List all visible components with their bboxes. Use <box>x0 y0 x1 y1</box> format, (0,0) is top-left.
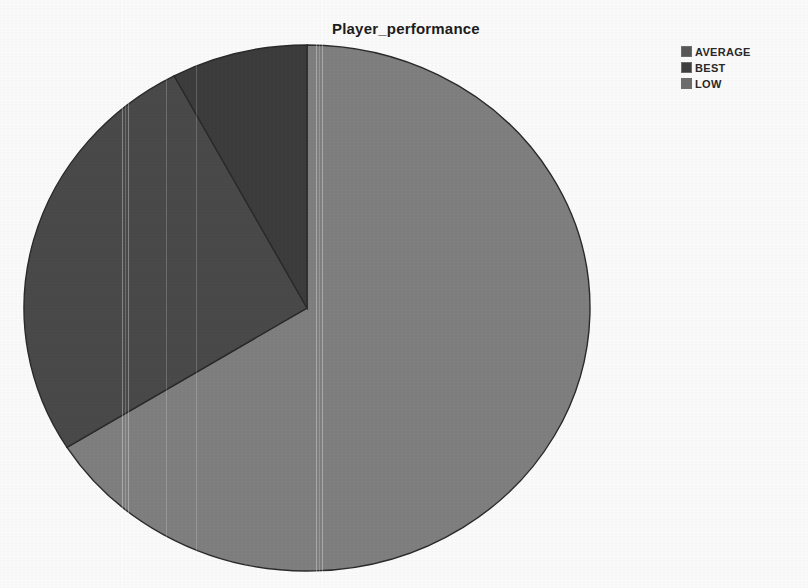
legend-item-average[interactable]: AVERAGE <box>681 44 801 59</box>
legend-label: BEST <box>695 62 726 74</box>
legend-label: LOW <box>695 78 722 90</box>
pie-slice-group: LOW: 66%AVERAGE: 26%BEST: 8% <box>24 45 590 571</box>
legend-item-best[interactable]: BEST <box>681 60 801 75</box>
legend-swatch-icon <box>681 62 692 73</box>
pie-chart: LOW: 66%AVERAGE: 26%BEST: 8% <box>0 0 620 588</box>
pie-chart-svg: LOW: 66%AVERAGE: 26%BEST: 8% <box>0 0 620 588</box>
chart-legend: AVERAGE BEST LOW <box>681 44 801 92</box>
chart-page: Player_performance LOW: 66%AVERAGE: 26%B… <box>0 0 808 588</box>
legend-label: AVERAGE <box>695 46 751 58</box>
legend-item-low[interactable]: LOW <box>681 76 801 91</box>
legend-swatch-icon <box>681 46 692 57</box>
legend-swatch-icon <box>681 78 692 89</box>
